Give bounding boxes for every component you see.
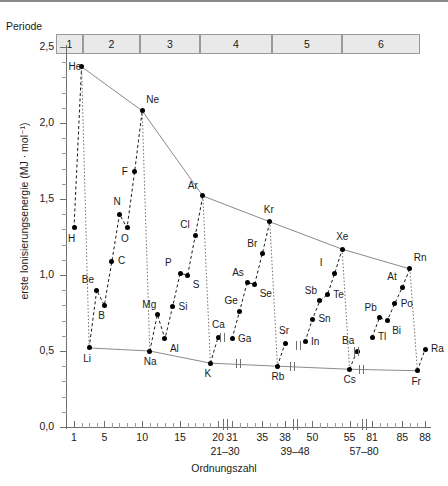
- point-label-c: C: [118, 255, 125, 266]
- data-point-s: [185, 273, 190, 278]
- series-break-mark-2: [288, 362, 297, 371]
- data-point-be: [94, 288, 99, 293]
- point-label-na: Na: [144, 356, 157, 367]
- point-label-kr: Kr: [264, 204, 274, 215]
- noble-drop-1: [142, 111, 150, 351]
- noble-drop-2: [203, 196, 211, 363]
- series-break-mark-1: [218, 333, 227, 342]
- data-point-as: [245, 280, 250, 285]
- data-point-h: [72, 225, 77, 230]
- point-label-fr: Fr: [411, 376, 420, 387]
- period-chain-0: [74, 67, 82, 228]
- period-chain-2: [150, 196, 203, 351]
- point-label-ba: Ba: [342, 335, 354, 346]
- point-label-bi: Bi: [392, 325, 401, 336]
- point-label-sr: Sr: [279, 325, 289, 336]
- data-point-p: [178, 271, 183, 276]
- point-label-rn: Rn: [414, 252, 427, 263]
- point-label-si: Si: [179, 301, 188, 312]
- data-point-o: [125, 225, 130, 230]
- data-point-xe: [340, 247, 345, 252]
- point-label-br: Br: [247, 238, 257, 249]
- point-label-he: He: [69, 61, 82, 72]
- point-label-be: Be: [82, 274, 94, 285]
- point-label-ne: Ne: [146, 94, 159, 105]
- data-point-bi: [385, 318, 390, 323]
- point-label-n: N: [113, 196, 120, 207]
- data-point-ra: [423, 347, 428, 352]
- data-point-ge: [237, 309, 242, 314]
- point-label-ca: Ca: [212, 319, 225, 330]
- noble-drop-5: [410, 269, 418, 371]
- point-label-po: Po: [401, 298, 413, 309]
- data-point-ga: [230, 336, 235, 341]
- point-label-sb: Sb: [305, 285, 317, 296]
- data-point-se: [252, 282, 257, 287]
- point-label-te: Te: [333, 289, 344, 300]
- point-label-o: O: [121, 233, 129, 244]
- series-break-mark-5: [352, 347, 361, 356]
- point-label-k: K: [204, 368, 211, 379]
- chart-figure: Periode 123456 erste Ionisierungsenergie…: [0, 0, 448, 486]
- point-label-s: S: [193, 279, 200, 290]
- point-label-ga: Ga: [238, 333, 251, 344]
- point-label-b: B: [98, 310, 105, 321]
- data-point-mg: [155, 312, 160, 317]
- point-label-tl: Tl: [378, 331, 386, 342]
- period-chain-5: [277, 343, 285, 366]
- series-break-mark-0: [234, 359, 243, 368]
- noble-drop-0: [82, 67, 90, 348]
- data-point-na: [147, 349, 152, 354]
- data-point-n: [117, 212, 122, 217]
- point-label-mg: Mg: [142, 299, 156, 310]
- point-label-at: At: [387, 271, 396, 282]
- alkali-baseline: [89, 348, 417, 371]
- point-label-al: Al: [170, 343, 179, 354]
- point-label-as: As: [232, 267, 244, 278]
- point-label-f: F: [122, 166, 128, 177]
- point-label-i: I: [320, 257, 323, 268]
- point-label-p: P: [165, 257, 172, 268]
- point-label-cs: Cs: [344, 374, 356, 385]
- data-point-at: [400, 285, 405, 290]
- data-point-rb: [275, 364, 280, 369]
- data-point-sn: [310, 317, 315, 322]
- data-point-cs: [347, 367, 352, 372]
- point-label-rb: Rb: [271, 371, 284, 382]
- series-break-mark-4: [357, 365, 366, 374]
- point-label-li: Li: [83, 353, 91, 364]
- point-label-ra: Ra: [431, 343, 444, 354]
- point-label-se: Se: [260, 288, 272, 299]
- point-label-sn: Sn: [318, 313, 330, 324]
- data-point-b: [102, 303, 107, 308]
- point-label-ge: Ge: [225, 295, 238, 306]
- noble-gas-envelope: [82, 67, 410, 269]
- data-point-k: [208, 361, 213, 366]
- point-label-h: H: [68, 233, 75, 244]
- period-chain-3: [210, 337, 218, 363]
- data-point-sr: [283, 341, 288, 346]
- data-point-br: [260, 251, 265, 256]
- period-chain-1: [89, 111, 142, 348]
- data-point-cl: [193, 233, 198, 238]
- point-label-cl: Cl: [180, 219, 189, 230]
- point-label-in: In: [311, 336, 319, 347]
- series-break-mark-3: [294, 341, 303, 350]
- data-point-tl: [370, 335, 375, 340]
- data-point-in: [303, 339, 308, 344]
- noble-drop-4: [342, 249, 349, 369]
- point-label-xe: Xe: [336, 231, 348, 242]
- point-label-pb: Pb: [365, 302, 377, 313]
- point-label-ar: Ar: [188, 180, 198, 191]
